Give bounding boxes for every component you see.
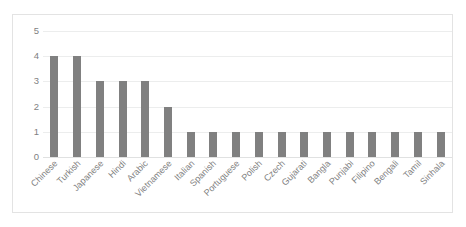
x-axis-tick-text: Punjabi	[328, 159, 356, 187]
bar[interactable]	[232, 132, 240, 157]
bar-slot	[43, 31, 66, 157]
bar[interactable]	[119, 81, 127, 157]
bar-slot	[157, 31, 180, 157]
bar[interactable]	[414, 132, 422, 157]
bar[interactable]	[50, 56, 58, 157]
bar-slot	[316, 31, 339, 157]
x-axis-tick-label: Bengali	[373, 159, 401, 187]
bar-slot	[88, 31, 111, 157]
bar[interactable]	[368, 132, 376, 157]
bar-slot	[66, 31, 89, 157]
y-axis: 012345	[25, 31, 39, 157]
x-axis-tick-text: Polish	[240, 159, 264, 183]
y-axis-tick-label: 1	[34, 127, 39, 137]
bar[interactable]	[346, 132, 354, 157]
bar-slot	[407, 31, 430, 157]
x-axis-tick-text: Sinhala	[418, 159, 446, 187]
y-axis-tick-label: 5	[34, 26, 39, 36]
bar-slot	[270, 31, 293, 157]
bar[interactable]	[187, 132, 195, 157]
bar-slot	[248, 31, 271, 157]
y-axis-tick-label: 2	[34, 102, 39, 112]
bar-slot	[429, 31, 452, 157]
x-axis: ChineseTurkishJapaneseHindiArabicVietnam…	[43, 159, 452, 225]
x-axis-tick-label: Polish	[240, 159, 264, 183]
chart-plot-frame: 012345 ChineseTurkishJapaneseHindiArabic…	[12, 14, 453, 213]
bar-slot	[134, 31, 157, 157]
x-axis-tick-label: Punjabi	[328, 159, 356, 187]
bar-slot	[361, 31, 384, 157]
x-axis-tick-text: Bengali	[373, 159, 401, 187]
y-axis-tick-label: 3	[34, 77, 39, 87]
bar[interactable]	[73, 56, 81, 157]
x-axis-tick-label: Sinhala	[418, 159, 446, 187]
bar-slot	[202, 31, 225, 157]
bars-series	[43, 31, 452, 157]
bar[interactable]	[391, 132, 399, 157]
y-axis-tick-label: 0	[34, 152, 39, 162]
bar[interactable]	[141, 81, 149, 157]
bar[interactable]	[255, 132, 263, 157]
bar-slot	[225, 31, 248, 157]
bar-slot	[338, 31, 361, 157]
bar[interactable]	[300, 132, 308, 157]
bar[interactable]	[209, 132, 217, 157]
bar-chart-figure: 012345 ChineseTurkishJapaneseHindiArabic…	[0, 0, 466, 227]
bar[interactable]	[278, 132, 286, 157]
x-axis-tick-text: Chinese	[30, 159, 60, 189]
plot-area	[43, 31, 452, 157]
bar-slot	[111, 31, 134, 157]
gridline-0	[43, 157, 452, 158]
bar-slot	[179, 31, 202, 157]
bar[interactable]	[96, 81, 104, 157]
x-axis-tick-label: Chinese	[30, 159, 60, 189]
bar[interactable]	[164, 107, 172, 157]
bar[interactable]	[437, 132, 445, 157]
bar-slot	[384, 31, 407, 157]
bar[interactable]	[323, 132, 331, 157]
bar-slot	[293, 31, 316, 157]
y-axis-tick-label: 4	[34, 51, 39, 61]
